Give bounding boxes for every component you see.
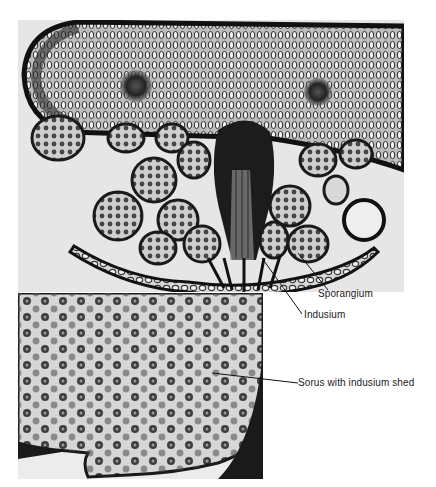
sorus-label: Sorus with indusium shed <box>298 377 414 388</box>
cross-section-illustration <box>18 20 404 292</box>
indusium-label: Indusium <box>304 309 345 320</box>
leaf-cross-section-micrograph <box>18 20 404 292</box>
sporangium-label: Sporangium <box>318 288 373 299</box>
figure: Sporangium Indusium Sorus with indusium … <box>0 0 436 487</box>
sporangia-right <box>260 140 384 262</box>
sori-surface-illustration <box>18 293 263 479</box>
leaf-surface-photo <box>18 293 263 479</box>
